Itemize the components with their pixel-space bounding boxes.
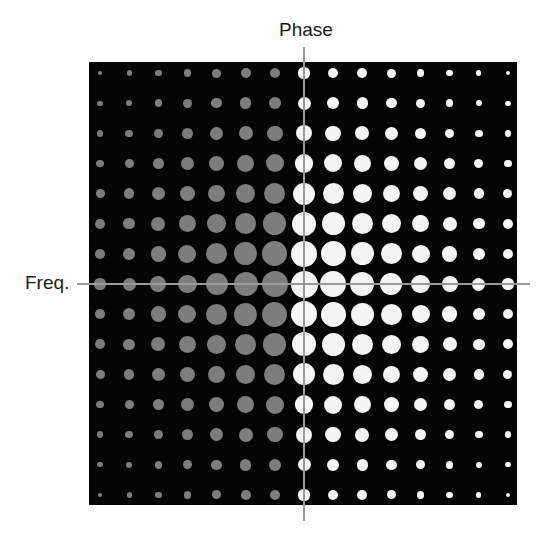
grid-dot	[324, 396, 342, 414]
grid-dot	[125, 130, 133, 138]
grid-dot	[152, 187, 165, 200]
grid-dot	[97, 101, 102, 106]
grid-dot	[211, 460, 222, 471]
grid-dot	[97, 130, 104, 137]
grid-dot	[181, 398, 194, 411]
grid-dot	[180, 367, 195, 382]
grid-dot	[152, 368, 165, 381]
grid-dot	[155, 99, 163, 107]
grid-dot	[351, 303, 374, 326]
grid-dot	[179, 336, 196, 353]
grid-dot	[179, 215, 196, 232]
grid-dot	[96, 160, 104, 168]
grid-dot	[353, 365, 373, 385]
grid-dot	[412, 215, 429, 232]
grid-dot	[125, 400, 134, 409]
grid-dot	[124, 369, 135, 380]
grid-dot	[443, 368, 456, 381]
grid-dot	[153, 399, 164, 410]
phase-axis-label: Phase	[279, 20, 333, 39]
grid-dot	[234, 303, 257, 326]
grid-dot	[476, 462, 482, 468]
grid-dot	[357, 459, 369, 471]
grid-dot	[473, 218, 485, 230]
grid-dot	[184, 491, 192, 499]
grid-dot	[182, 128, 193, 139]
grid-dot	[155, 461, 163, 469]
grid-dot	[386, 98, 397, 109]
grid-dot	[266, 396, 284, 414]
grid-dot	[385, 127, 398, 140]
grid-dot	[321, 302, 346, 327]
grid-dot	[505, 101, 510, 106]
grid-dot	[505, 130, 512, 137]
grid-dot	[241, 490, 251, 500]
freq-axis-line	[77, 283, 530, 285]
grid-dot	[155, 70, 162, 77]
grid-dot	[475, 130, 483, 138]
grid-dot	[127, 492, 132, 497]
grid-dot	[416, 99, 425, 108]
grid-dot	[384, 156, 399, 171]
grid-dot	[475, 431, 483, 439]
grid-dot	[443, 337, 457, 351]
grid-dot	[269, 459, 281, 471]
grid-dot	[446, 461, 454, 469]
grid-dot	[151, 246, 166, 261]
grid-dot	[504, 401, 512, 409]
grid-dot	[155, 492, 162, 499]
grid-dot	[237, 396, 254, 413]
grid-dot	[504, 160, 512, 168]
grid-dot	[267, 126, 282, 141]
grid-dot	[505, 431, 512, 438]
phase-frequency-diagram: Phase Freq.	[0, 0, 541, 537]
grid-dot	[153, 158, 164, 169]
grid-dot	[412, 305, 430, 323]
grid-dot	[212, 69, 221, 78]
grid-dot	[415, 128, 426, 139]
grid-dot	[322, 333, 345, 356]
grid-dot	[355, 428, 369, 442]
grid-dot	[473, 248, 485, 260]
grid-dot	[446, 492, 453, 499]
grid-dot	[412, 245, 430, 263]
grid-dot	[354, 396, 371, 413]
grid-dot	[267, 427, 282, 442]
freq-axis-label: Freq.	[25, 273, 69, 292]
grid-dot	[354, 155, 371, 172]
grid-dot	[322, 212, 345, 235]
grid-dot	[414, 157, 427, 170]
grid-dot	[386, 460, 397, 471]
grid-dot	[154, 129, 163, 138]
grid-dot	[352, 334, 373, 355]
grid-dot	[240, 459, 252, 471]
grid-dot	[387, 69, 396, 78]
grid-dot	[325, 427, 340, 442]
grid-dot	[181, 157, 194, 170]
grid-dot	[241, 68, 251, 78]
grid-dot	[417, 491, 425, 499]
grid-dot	[412, 336, 429, 353]
grid-dot	[442, 246, 457, 261]
grid-dot	[184, 69, 192, 77]
grid-dot	[237, 155, 254, 172]
grid-dot	[357, 97, 369, 109]
grid-dot	[206, 304, 227, 325]
grid-dot	[381, 304, 402, 325]
grid-dot	[503, 219, 513, 229]
grid-dot	[151, 306, 166, 321]
grid-dot	[443, 217, 457, 231]
grid-dot	[96, 370, 105, 379]
grid-dot	[210, 127, 223, 140]
grid-dot	[325, 126, 340, 141]
grid-dot	[382, 335, 402, 355]
grid-dot	[474, 188, 485, 199]
grid-dot	[323, 364, 344, 385]
grid-dot	[473, 339, 485, 351]
grid-dot	[125, 159, 134, 168]
grid-dot	[442, 306, 457, 321]
grid-dot	[262, 302, 287, 327]
grid-dot	[323, 183, 344, 204]
grid-dot	[183, 99, 192, 108]
grid-dot	[321, 241, 346, 266]
